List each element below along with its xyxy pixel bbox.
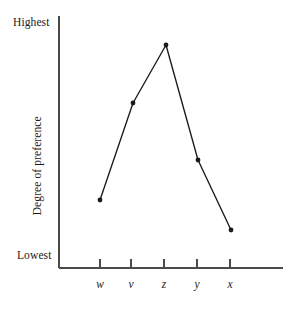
x-axis-label-y: y xyxy=(184,279,210,291)
y-axis-max-label: Highest xyxy=(13,17,49,29)
data-point-x xyxy=(229,228,234,233)
preference-data-line xyxy=(100,45,231,230)
x-axis-label-v: v xyxy=(118,279,144,291)
data-point-w xyxy=(98,198,103,203)
preference-line-chart: Highest Lowest Degree of preference wvzy… xyxy=(0,0,308,309)
x-axis-label-w: w xyxy=(87,279,113,291)
chart-plot-area xyxy=(0,0,308,309)
y-axis-title: Degree of preference xyxy=(32,86,44,246)
data-point-markers xyxy=(98,43,234,233)
x-axis-ticks xyxy=(100,259,230,268)
data-point-v xyxy=(131,101,136,106)
data-point-z xyxy=(164,43,169,48)
x-axis-label-z: z xyxy=(151,279,177,291)
axis-lines xyxy=(59,16,283,268)
data-point-y xyxy=(196,158,201,163)
x-axis-label-x: x xyxy=(217,279,243,291)
y-axis-min-label: Lowest xyxy=(17,250,51,262)
